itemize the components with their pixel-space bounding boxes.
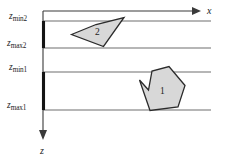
tick-subscript-zmax2: max2 — [11, 42, 27, 50]
diagram-canvas — [0, 0, 225, 159]
x-axis — [43, 7, 201, 15]
tick-label-zmin2: zmin2 — [9, 12, 27, 24]
tick-label-zmin1: zmin1 — [9, 63, 27, 75]
figure-root: zmin2 zmax2 zmin1 zmax1 x z 2 1 — [0, 0, 225, 159]
tick-label-zmax2: zmax2 — [7, 39, 26, 51]
x-axis-arrowhead — [192, 7, 201, 15]
x-axis-label: x — [207, 6, 211, 16]
tick-label-zmax1: zmax1 — [7, 101, 26, 113]
tick-subscript-zmin1: min1 — [13, 66, 27, 74]
scan-line-group — [43, 21, 211, 110]
tick-subscript-zmax1: max1 — [11, 104, 27, 112]
polygon-1-label: 1 — [160, 87, 165, 97]
tick-subscript-zmin2: min2 — [13, 15, 27, 23]
polygon-2-label: 2 — [95, 28, 100, 38]
z-axis-label: z — [40, 146, 44, 156]
z-axis-arrowhead — [39, 130, 47, 140]
